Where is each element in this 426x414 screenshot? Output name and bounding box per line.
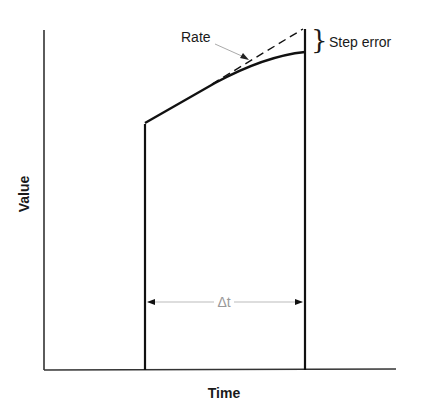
step-error-diagram: } Rate Step error Δt Time Value (0, 0, 426, 414)
delta-t-label: Δt (217, 294, 230, 310)
rate-pointer-arrow (215, 44, 244, 57)
step-error-brace: } (311, 25, 328, 55)
y-axis-label: Value (16, 176, 32, 213)
x-axis (44, 369, 396, 370)
delta-t-arrowhead-left (147, 299, 155, 305)
true-curve (145, 52, 305, 123)
rate-label: Rate (181, 29, 211, 45)
delta-t-arrowhead-right (295, 299, 303, 305)
x-axis-label: Time (208, 385, 241, 401)
step-error-label: Step error (329, 34, 392, 50)
rate-tangent-dashed (212, 29, 303, 84)
rate-arrowhead (240, 53, 249, 60)
